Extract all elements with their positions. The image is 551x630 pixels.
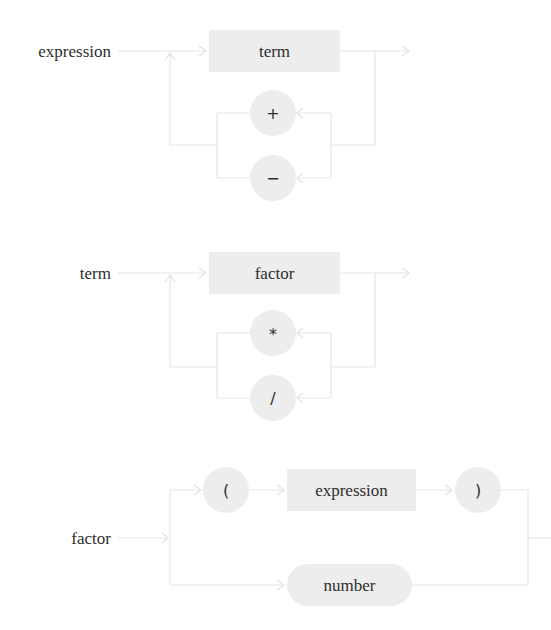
nonterminal-label: expression: [315, 481, 388, 500]
nonterminal-label: factor: [255, 264, 295, 283]
nonterminal-label: term: [259, 42, 290, 61]
rule-factor: factor ( expression ) number: [71, 467, 551, 606]
terminal-multiply[interactable]: *: [250, 310, 296, 356]
terminal-label: number: [324, 576, 376, 595]
nonterminal-term[interactable]: term: [209, 30, 340, 72]
terminal-label: −: [266, 169, 279, 188]
terminal-divide[interactable]: /: [250, 375, 296, 421]
rule-label-factor: factor: [71, 529, 111, 548]
terminal-plus[interactable]: +: [250, 90, 296, 136]
terminal-open-paren[interactable]: (: [203, 467, 249, 513]
rule-term: term factor * /: [80, 252, 409, 421]
join-rail-right: [501, 490, 528, 585]
terminal-label: ): [475, 481, 481, 500]
terminal-label: +: [266, 104, 279, 123]
rule-expression: expression term + −: [38, 30, 409, 201]
syntax-diagram: expression term + −: [0, 0, 551, 630]
terminal-label: /: [270, 389, 276, 408]
terminal-label: (: [223, 481, 229, 500]
nonterminal-expression[interactable]: expression: [287, 469, 416, 511]
terminal-number[interactable]: number: [287, 564, 412, 606]
rule-label-expression: expression: [38, 42, 111, 61]
terminal-close-paren[interactable]: ): [455, 467, 501, 513]
terminal-minus[interactable]: −: [250, 155, 296, 201]
terminal-label: *: [269, 325, 277, 344]
rule-label-term: term: [80, 264, 111, 283]
nonterminal-factor[interactable]: factor: [209, 252, 340, 294]
